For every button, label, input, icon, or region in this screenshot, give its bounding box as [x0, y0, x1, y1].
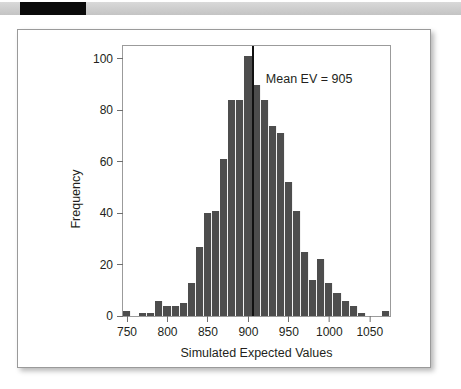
histogram-bar	[139, 313, 147, 316]
y-axis-tick-mark	[117, 161, 123, 162]
histogram-bar	[382, 311, 390, 316]
x-axis-tick-mark	[207, 316, 208, 322]
histogram-bar	[180, 303, 188, 316]
y-axis-tick-mark	[117, 110, 123, 111]
histogram-bar	[155, 301, 163, 316]
y-axis-tick: 20	[100, 258, 123, 272]
histogram-bars	[123, 46, 390, 316]
y-axis-tick: 100	[93, 52, 123, 66]
plot-frame: Mean EV = 905 020406080100 7508008509009…	[122, 45, 391, 317]
x-axis-tick-mark	[369, 316, 370, 322]
black-marker-strip	[20, 2, 86, 15]
x-axis-tick-label: 900	[238, 325, 258, 339]
y-axis-tick-mark	[117, 213, 123, 214]
x-axis-tick: 850	[198, 316, 218, 339]
histogram-bar	[317, 259, 325, 316]
histogram-bar	[228, 100, 236, 316]
histogram-bar	[277, 133, 285, 316]
histogram-bar	[285, 182, 293, 316]
x-axis-tick: 1050	[356, 316, 383, 339]
y-axis-tick: 80	[100, 103, 123, 117]
figure-panel: Frequency Mean EV = 905 020406080100 750…	[17, 29, 431, 368]
histogram-bar	[147, 313, 155, 316]
y-axis-tick-label: 0	[106, 309, 117, 323]
y-axis-tick: 40	[100, 206, 123, 220]
x-axis-tick-mark	[248, 316, 249, 322]
y-axis-tick-label: 20	[100, 258, 117, 272]
histogram-bar	[163, 306, 171, 316]
mean-reference-line	[252, 46, 254, 316]
x-axis-tick-mark	[329, 316, 330, 322]
histogram-bar	[220, 159, 228, 316]
histogram-bar	[261, 100, 269, 316]
histogram-bar	[244, 56, 252, 316]
histogram-bar	[236, 100, 244, 316]
y-axis-label: Frequency	[69, 169, 83, 228]
histogram-bar	[325, 283, 333, 316]
x-axis-tick: 1000	[316, 316, 343, 339]
x-axis-tick-label: 850	[198, 325, 218, 339]
x-axis-tick-label: 1050	[356, 325, 383, 339]
x-axis-tick: 800	[157, 316, 177, 339]
histogram-bar	[269, 126, 277, 316]
y-axis-tick-label: 40	[100, 206, 117, 220]
histogram-bar	[212, 211, 220, 316]
histogram-bar	[309, 280, 317, 316]
histogram-bar	[301, 252, 309, 316]
histogram-bar	[204, 213, 212, 316]
x-axis-tick-label: 750	[117, 325, 137, 339]
histogram-bar	[293, 211, 301, 316]
x-axis-tick-mark	[288, 316, 289, 322]
y-axis-tick: 60	[100, 155, 123, 169]
y-axis-tick-label: 80	[100, 103, 117, 117]
x-axis-label: Simulated Expected Values	[122, 346, 391, 360]
y-axis-tick-label: 100	[93, 52, 117, 66]
histogram-bar	[350, 306, 358, 316]
x-axis-tick: 900	[238, 316, 258, 339]
y-axis-tick-mark	[117, 58, 123, 59]
histogram-bar	[172, 306, 180, 316]
x-axis-tick-mark	[127, 316, 128, 322]
histogram-bar	[196, 247, 204, 316]
plot-inner: Mean EV = 905 020406080100 7508008509009…	[123, 46, 390, 316]
histogram-bar	[333, 293, 341, 316]
y-axis-tick-mark	[117, 264, 123, 265]
x-axis-tick: 750	[117, 316, 137, 339]
x-axis-tick-label: 800	[157, 325, 177, 339]
y-axis-tick-label: 60	[100, 155, 117, 169]
x-axis-tick-label: 1000	[316, 325, 343, 339]
histogram-bar	[342, 301, 350, 316]
histogram-bar	[188, 283, 196, 316]
x-axis-tick-mark	[167, 316, 168, 322]
mean-annotation-label: Mean EV = 905	[266, 72, 353, 86]
top-banner-strip	[0, 2, 461, 15]
x-axis-tick-label: 950	[279, 325, 299, 339]
x-axis-tick: 950	[279, 316, 299, 339]
